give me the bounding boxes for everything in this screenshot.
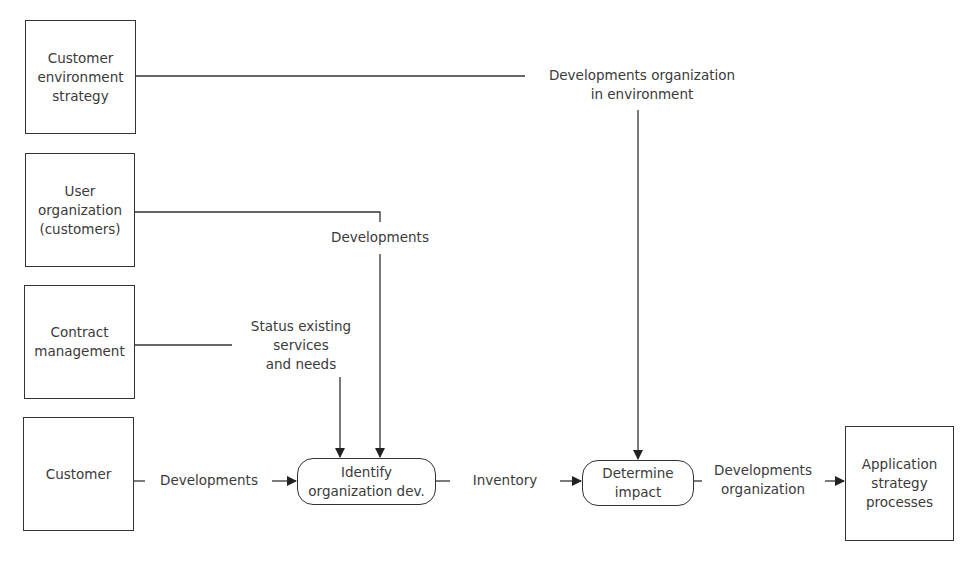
flow-label-status-existing-services: Status existing services and needs: [236, 317, 366, 374]
entity-application-strategy-processes: Application strategy processes: [845, 426, 954, 541]
process-determine-impact: Determine impact: [582, 460, 694, 506]
flow-label-developments-customer: Developments: [148, 471, 270, 490]
flow-label-developments-organization-in-environment: Developments organization in environment: [527, 66, 757, 104]
flow-label-inventory: Inventory: [454, 471, 556, 490]
entity-customer: Customer: [23, 417, 134, 531]
flow-label-developments-user: Developments: [320, 228, 440, 247]
entity-contract-management: Contract management: [24, 285, 135, 399]
process-identify-organization-dev: Identify organization dev.: [297, 458, 436, 505]
entity-user-organization: User organization (customers): [25, 153, 135, 267]
entity-customer-environment-strategy: Customer environment strategy: [25, 20, 136, 134]
flow-label-developments-organization: Developments organization: [703, 461, 823, 499]
